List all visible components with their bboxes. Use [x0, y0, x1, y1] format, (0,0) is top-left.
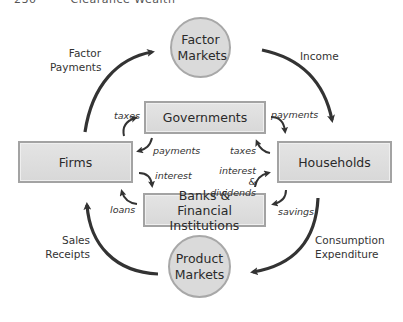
savings-arrow	[274, 190, 286, 204]
savings-label: savings	[278, 206, 314, 217]
firms-interest-label: interest	[155, 170, 192, 181]
interest-dividends-label: interest & dividends	[210, 165, 256, 198]
consumption-expenditure-label: Consumption Expenditure	[315, 233, 385, 261]
node-governments: Governments	[144, 101, 266, 134]
sales-receipts-label: Sales Receipts	[40, 233, 90, 261]
node-product-markets: Product Markets	[168, 235, 231, 298]
firms-label: Firms	[59, 155, 92, 170]
product-markets-label: Product Markets	[175, 251, 225, 283]
households-taxes-arrow	[257, 142, 270, 153]
banks-loans-label: loans	[110, 204, 135, 215]
interest-dividends-arrow	[255, 173, 268, 187]
factor-markets-label: Factor Markets	[178, 32, 224, 64]
node-households: Households	[277, 141, 392, 183]
governments-label: Governments	[163, 110, 247, 125]
node-factor-markets: Factor Markets	[170, 17, 231, 78]
banks-loans-arrow	[122, 192, 137, 204]
firms-interest-arrow	[139, 173, 152, 185]
households-label: Households	[298, 155, 371, 170]
factor-payments-label: Factor Payments	[50, 46, 101, 74]
node-firms: Firms	[18, 141, 133, 183]
gov-payments-firms-arrow	[139, 138, 152, 151]
gov-payments-firms-label: payments	[153, 145, 200, 156]
node-banks: Banks & Financial Institutions	[143, 193, 266, 227]
income-label: Income	[300, 49, 339, 63]
firms-taxes-label: taxes	[114, 110, 140, 121]
gov-payments-households-label: payments	[271, 109, 318, 120]
households-taxes-label: taxes	[230, 145, 256, 156]
